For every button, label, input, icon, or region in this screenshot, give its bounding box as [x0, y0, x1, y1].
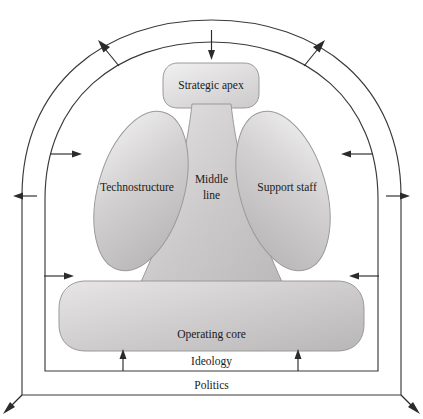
- ideology-arrow-right-lower: [349, 273, 379, 280]
- politics-arrow-bottom-right: [401, 395, 420, 414]
- ideology-arrow-left-lower: [44, 273, 74, 280]
- support-staff-label: Support staff: [257, 181, 317, 194]
- mintzberg-diagram: Strategic apex Middle line Technostructu…: [0, 0, 423, 419]
- operating-core-shape[interactable]: [59, 281, 364, 351]
- politics-arrow-left: [13, 193, 37, 200]
- middle-line-label-line1: Middle: [195, 173, 228, 185]
- operating-core-label: Operating core: [177, 328, 246, 341]
- politics-arrow-bottom-left: [3, 395, 22, 414]
- ideology-arrow-right-upper: [341, 151, 373, 158]
- middle-line-label-line2: line: [203, 189, 220, 201]
- ideology-arrow-top: [208, 30, 215, 60]
- diagram-canvas: Strategic apex Middle line Technostructu…: [0, 0, 423, 419]
- part-strategic-apex[interactable]: Strategic apex: [163, 63, 259, 108]
- ideology-arrow-left-upper: [50, 151, 82, 158]
- technostructure-label: Technostructure: [100, 181, 174, 193]
- strategic-apex-label: Strategic apex: [178, 79, 244, 92]
- politics-label: Politics: [194, 379, 229, 391]
- politics-arrow-right: [386, 193, 410, 200]
- ideology-label: Ideology: [191, 355, 232, 368]
- ideology-arrow-bottom-right: [295, 349, 302, 371]
- ideology-arrow-bottom-left: [120, 349, 127, 371]
- part-operating-core[interactable]: Operating core: [59, 281, 364, 351]
